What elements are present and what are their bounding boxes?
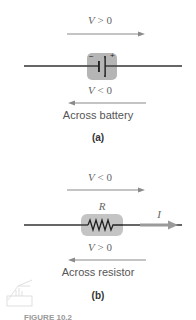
panel-b-label: (b): [0, 290, 196, 301]
battery-minus-sign: −: [89, 52, 94, 61]
resistor-negative-voltage-label: V < 0: [80, 171, 120, 183]
current-arrow-icon: [140, 221, 178, 230]
battery-caption: Across battery: [0, 109, 196, 121]
arrow-left-icon: [68, 258, 146, 263]
battery-plus-sign: +: [110, 51, 115, 60]
arrow-left-icon: [68, 101, 146, 106]
figure-footer: FIGURE 10.2: [24, 313, 72, 320]
arrow-right-icon: [67, 188, 145, 193]
current-label: I: [154, 208, 164, 220]
battery-negative-voltage-label: V < 0: [80, 84, 120, 96]
resistor-icon: [81, 214, 123, 236]
resistor-caption: Across resistor: [0, 266, 196, 278]
resistor-label: R: [96, 200, 108, 212]
panel-a-label: (a): [0, 132, 196, 143]
arrow-right-icon: [67, 32, 145, 37]
resistor-positive-voltage-label: V > 0: [80, 241, 120, 253]
